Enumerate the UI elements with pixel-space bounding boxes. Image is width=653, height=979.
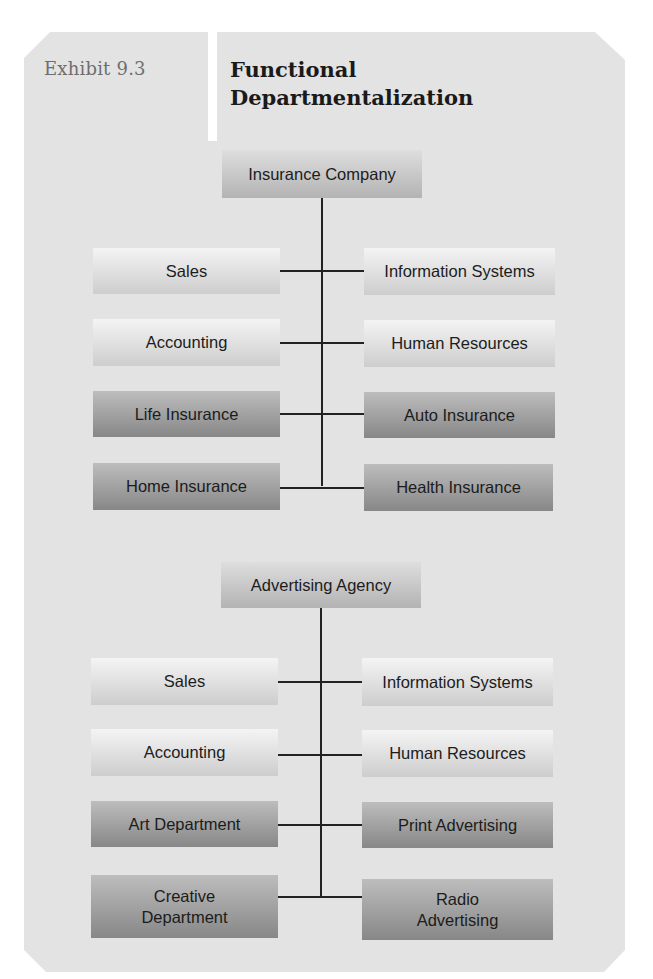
dept-accounting: Accounting — [93, 319, 280, 366]
connector-line — [280, 413, 364, 415]
dept-sales: Sales — [93, 248, 280, 294]
dept-radio-advertising: Radio Advertising — [362, 879, 553, 940]
connector-line — [278, 824, 362, 826]
dept-accounting: Accounting — [91, 729, 278, 776]
exhibit-number: Exhibit 9.3 — [44, 58, 146, 79]
connector-line — [278, 754, 362, 756]
title-divider-bar — [208, 32, 217, 141]
dept-information-systems: Information Systems — [364, 248, 555, 295]
org-root-advertising-agency: Advertising Agency — [221, 562, 421, 608]
connector-line — [280, 342, 364, 344]
dept-sales: Sales — [91, 658, 278, 705]
exhibit-title: Functional Departmentalization — [230, 56, 610, 112]
org-root-insurance-company: Insurance Company — [222, 150, 422, 198]
dept-label-line1: Creative — [154, 886, 215, 907]
dept-home-insurance: Home Insurance — [93, 463, 280, 510]
dept-information-systems: Information Systems — [362, 658, 553, 706]
connector-line — [280, 270, 364, 272]
dept-auto-insurance: Auto Insurance — [364, 392, 555, 438]
dept-print-advertising: Print Advertising — [362, 802, 553, 848]
dept-label-line2: Department — [141, 907, 227, 928]
dept-art-department: Art Department — [91, 801, 278, 847]
dept-health-insurance: Health Insurance — [364, 464, 553, 511]
dept-label-line2: Advertising — [417, 910, 499, 931]
connector-line — [278, 681, 362, 683]
connector-line — [278, 896, 362, 898]
trunk-line — [320, 608, 322, 897]
exhibit-title-line2: Departmentalization — [230, 84, 610, 112]
connector-line — [280, 487, 364, 489]
dept-creative-department: Creative Department — [91, 875, 278, 938]
dept-label-line1: Radio — [436, 889, 479, 910]
dept-life-insurance: Life Insurance — [93, 391, 280, 437]
exhibit-title-line1: Functional — [230, 56, 610, 84]
dept-human-resources: Human Resources — [364, 320, 555, 367]
dept-human-resources: Human Resources — [362, 730, 553, 777]
